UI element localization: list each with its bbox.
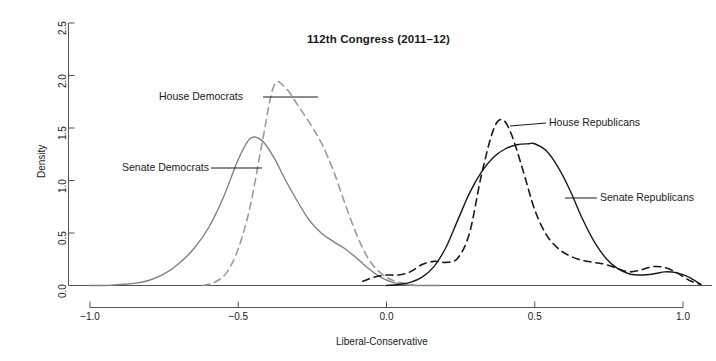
y-tick-label: 0.0: [57, 284, 68, 298]
y-axis-ticks: [69, 23, 75, 286]
x-tick-label: −0.5: [226, 311, 250, 322]
plot-canvas: [0, 0, 716, 361]
x-tick-label: 0.5: [523, 311, 547, 322]
annotation-house-republicans: House Republicans: [549, 116, 640, 128]
annotation-senate-republicans: Senate Republicans: [600, 191, 694, 203]
leader-house-republicans: [510, 123, 546, 126]
x-tick-label: 1.0: [671, 311, 695, 322]
density-curve-senate-democrats: [90, 137, 440, 286]
x-tick-label: 0.0: [375, 311, 399, 322]
y-tick-label: 1.0: [57, 179, 68, 193]
density-plot-figure: 112th Congress (2011–12) Liberal-Conserv…: [0, 0, 716, 361]
x-axis: [90, 302, 683, 308]
chart-title: 112th Congress (2011–12): [307, 33, 450, 45]
y-axis-label: Density: [36, 145, 47, 178]
y-tick-label: 0.5: [57, 231, 68, 245]
density-curve-house-democrats: [203, 82, 416, 286]
y-tick-label: 2.0: [57, 74, 68, 88]
density-curves: [90, 82, 701, 286]
annotation-senate-democrats: Senate Democrats: [122, 161, 209, 173]
y-tick-label: 2.5: [57, 21, 68, 35]
annotation-leaders: [211, 97, 597, 198]
annotation-house-democrats: House Democrats: [159, 90, 243, 102]
x-tick-label: −1.0: [78, 311, 102, 322]
x-axis-label: Liberal-Conservative: [336, 336, 428, 347]
density-curve-senate-republicans: [387, 143, 701, 285]
y-axis: [69, 23, 75, 286]
x-axis-ticks: [90, 302, 683, 308]
y-tick-label: 1.5: [57, 126, 68, 140]
